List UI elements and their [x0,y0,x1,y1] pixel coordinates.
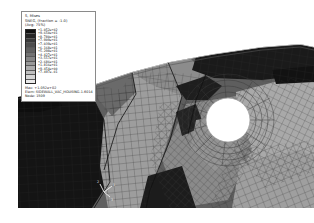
legend-level-12: +7.497e-01 [38,71,93,75]
legend-colorbar-wrap: +1.052e+02+9.650e+01+8.780e+01+7.909e+01… [25,29,93,85]
screenshot-root: 1 2 3 S, Mises SNEG, (fraction = -1.0) (… [0,0,314,223]
legend-footer-line-2: Node: 1509 [25,94,93,98]
triad-label-3: 3 [111,198,113,202]
legend-footer: Max: +1.052e+02Elem: SIDEWALL_VAC_HOUSIN… [25,86,93,99]
triad-label-2: 2 [97,180,99,184]
legend-title-block: S, Mises SNEG, (fraction = -1.0) (Avg: 7… [25,14,93,28]
legend-band-11 [26,80,35,84]
viewport-left-margin [0,0,18,223]
contour-legend[interactable]: S, Mises SNEG, (fraction = -1.0) (Avg: 7… [21,11,96,102]
model-hole [206,98,250,142]
viewport-bottom-margin [0,208,314,223]
legend-level-labels: +1.052e+02+9.650e+01+8.780e+01+7.909e+01… [38,29,93,75]
legend-colorbar[interactable] [25,29,36,85]
triad-label-1: 1 [113,183,115,187]
legend-average-label: (Avg: 75%) [25,23,93,28]
